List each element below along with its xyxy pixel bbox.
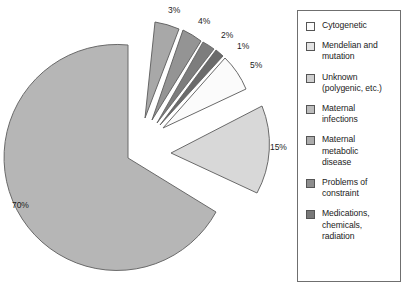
legend-swatch-icon [306, 210, 315, 219]
legend-item-medications[interactable]: Medications,chemicals,radiation [306, 208, 394, 242]
slice-label-unknown: 70% [12, 201, 29, 210]
legend-item-maternal-metabolic-disease[interactable]: Maternalmetabolicdisease [306, 134, 394, 168]
legend-item-cytogenetic[interactable]: Cytogenetic [306, 20, 394, 31]
slice-label-maternal-infections: 3% [168, 6, 180, 15]
legend-item-label: Cytogenetic [322, 20, 367, 31]
legend-swatch-icon [306, 105, 315, 114]
slice-label-problems-of-constraint: 2% [221, 31, 233, 40]
legend-item-unknown[interactable]: Unknown(polygenic, etc.) [306, 72, 394, 94]
legend-item-maternal-infections[interactable]: Maternalinfections [306, 103, 394, 125]
legend-swatch-icon [306, 179, 315, 188]
slice-label-mendelian: 15% [270, 143, 287, 152]
pie-plot-area: 3% 4% 2% 1% 5% 15% 70% [0, 0, 292, 292]
legend-item-label: Problems ofconstraint [322, 177, 367, 199]
legend-swatch-icon [306, 74, 315, 83]
legend-item-label: Unknown(polygenic, etc.) [322, 72, 382, 94]
legend-item-label: Mendelian andmutation [322, 40, 378, 62]
legend-swatch-icon [306, 136, 315, 145]
legend-item-label: Medications,chemicals,radiation [322, 208, 370, 242]
pie-slice-mendelian[interactable] [171, 106, 269, 193]
legend-item-mendelian-and-mutation[interactable]: Mendelian andmutation [306, 40, 394, 62]
legend-swatch-icon [306, 42, 315, 51]
slice-label-cytogenetic: 5% [250, 61, 262, 70]
slice-label-medications: 1% [237, 42, 249, 51]
pie-chart-figure: 3% 4% 2% 1% 5% 15% 70% Cytogenetic Mende… [0, 0, 409, 292]
legend-item-problems-of-constraint[interactable]: Problems ofconstraint [306, 177, 394, 199]
legend: Cytogenetic Mendelian andmutation Unknow… [297, 10, 401, 282]
legend-item-label: Maternalinfections [322, 103, 358, 125]
legend-swatch-icon [306, 22, 315, 31]
legend-item-label: Maternalmetabolicdisease [322, 134, 358, 168]
slice-label-maternal-metabolic: 4% [198, 17, 210, 26]
